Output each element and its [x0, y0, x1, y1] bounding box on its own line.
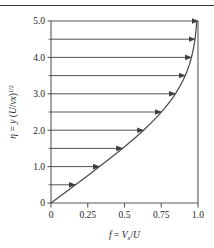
y-tick-label-1: 1.0 — [33, 162, 45, 172]
x-tick-label-2: 0.5 — [119, 210, 131, 220]
y-tick-label-3: 3.0 — [33, 89, 45, 99]
y-tick-label-0: 0 — [40, 198, 45, 208]
y-axis-title: η = y (U/νx)1/2 — [8, 85, 20, 138]
x-axis-major-ticks — [51, 203, 198, 208]
x-tick-label-4: 1.0 — [192, 210, 204, 220]
x-tick-label-3: 0.75 — [153, 210, 170, 220]
x-tick-labels: 0 0.25 0.5 0.75 1.0 — [49, 210, 205, 220]
svg-text:η = y (U/νx)1/2: η = y (U/νx)1/2 — [8, 85, 20, 138]
velocity-arrow-group — [51, 21, 198, 185]
y-tick-label-2: 2.0 — [33, 126, 45, 136]
blasius-profile-figure: 0 1.0 2.0 3.0 4.0 5.0 0 0.25 0.5 0.75 1.… — [0, 0, 214, 248]
x-tick-label-1: 0.25 — [79, 210, 96, 220]
y-tick-label-5: 5.0 — [33, 16, 45, 26]
svg-text:f = Vx/U: f = Vx/U — [109, 230, 141, 241]
y-title-exp: 1/2 — [8, 85, 14, 93]
x-title-U: U — [133, 230, 141, 240]
y-tick-labels: 0 1.0 2.0 3.0 4.0 5.0 — [33, 16, 45, 208]
y-tick-label-4: 4.0 — [33, 53, 45, 63]
chart-canvas: 0 1.0 2.0 3.0 4.0 5.0 0 0.25 0.5 0.75 1.… — [0, 0, 214, 248]
x-tick-label-0: 0 — [49, 210, 54, 220]
x-axis-title: f = Vx/U — [109, 230, 141, 241]
